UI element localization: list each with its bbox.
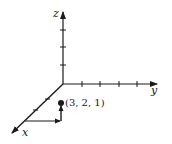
x-axis: [12, 84, 63, 133]
point-label: (3, 2, 1): [65, 97, 105, 108]
x-axis-label: x: [22, 126, 29, 139]
coordinate-diagram: z y x (3, 2, 1): [0, 0, 172, 144]
z-axis-label: z: [52, 7, 59, 20]
y-axis: [63, 81, 157, 87]
axes-svg: z y x (3, 2, 1): [0, 0, 172, 144]
point-dot: [58, 100, 64, 106]
z-axis: [60, 12, 66, 84]
point-path: [25, 106, 61, 121]
y-axis-label: y: [150, 84, 158, 97]
